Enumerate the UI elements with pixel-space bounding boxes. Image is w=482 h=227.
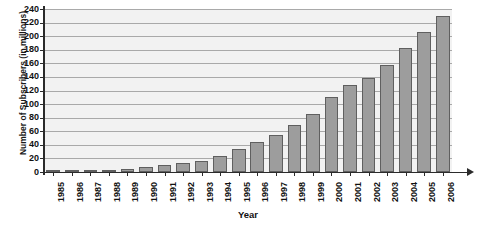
x-tick-label: 1994 bbox=[224, 182, 233, 202]
x-tick-label: 2001 bbox=[354, 182, 363, 202]
x-tick-label: 1991 bbox=[169, 182, 178, 202]
bar bbox=[343, 85, 357, 172]
y-tick-label: 120 bbox=[15, 86, 39, 95]
y-tick-label: 0 bbox=[15, 168, 39, 177]
x-tick-mark bbox=[183, 172, 184, 176]
x-tick-label: 2006 bbox=[447, 182, 456, 202]
y-axis-tick-labels: 020406080100120140160180200220240 bbox=[11, 0, 39, 227]
x-tick-mark bbox=[443, 172, 444, 176]
x-tick-mark bbox=[146, 172, 147, 176]
y-tick-label: 220 bbox=[15, 18, 39, 27]
x-tick-label: 1996 bbox=[261, 182, 270, 202]
x-tick-label: 1992 bbox=[187, 182, 196, 202]
x-tick-mark bbox=[53, 172, 54, 176]
x-tick-label: 1987 bbox=[94, 182, 103, 202]
bar bbox=[269, 135, 283, 172]
x-tick-mark bbox=[220, 172, 221, 176]
x-tick-mark bbox=[127, 172, 128, 176]
x-tick-label: 1985 bbox=[57, 182, 66, 202]
x-tick-label: 2005 bbox=[428, 182, 437, 202]
y-tick-label: 80 bbox=[15, 113, 39, 122]
x-tick-label: 1993 bbox=[206, 182, 215, 202]
bar bbox=[436, 16, 450, 172]
bar bbox=[232, 149, 246, 172]
y-tick-label: 40 bbox=[15, 140, 39, 149]
x-tick-mark bbox=[276, 172, 277, 176]
y-tick-label: 100 bbox=[15, 100, 39, 109]
x-tick-mark bbox=[350, 172, 351, 176]
bar bbox=[399, 48, 413, 172]
bar bbox=[288, 125, 302, 172]
x-tick-label: 1988 bbox=[113, 182, 122, 202]
x-tick-mark bbox=[109, 172, 110, 176]
y-tick-label: 60 bbox=[15, 127, 39, 136]
x-tick-mark bbox=[165, 172, 166, 176]
x-tick-label: 1998 bbox=[298, 182, 307, 202]
x-tick-mark bbox=[202, 172, 203, 176]
x-axis-title: Year bbox=[44, 209, 452, 220]
x-tick-mark bbox=[424, 172, 425, 176]
x-tick-label: 2002 bbox=[373, 182, 382, 202]
bar bbox=[417, 32, 431, 172]
bar bbox=[380, 65, 394, 172]
x-tick-label: 1995 bbox=[243, 182, 252, 202]
y-axis-line bbox=[43, 6, 45, 175]
bar bbox=[362, 78, 376, 172]
x-tick-mark bbox=[90, 172, 91, 176]
x-tick-mark bbox=[313, 172, 314, 176]
x-tick-label: 1989 bbox=[131, 182, 140, 202]
x-tick-mark bbox=[294, 172, 295, 176]
y-tick-label: 160 bbox=[15, 59, 39, 68]
x-tick-label: 1997 bbox=[280, 182, 289, 202]
x-tick-mark bbox=[257, 172, 258, 176]
bar bbox=[306, 114, 320, 172]
x-tick-mark bbox=[239, 172, 240, 176]
x-tick-mark bbox=[406, 172, 407, 176]
bar bbox=[325, 97, 339, 172]
x-tick-label: 2003 bbox=[391, 182, 400, 202]
x-tick-mark bbox=[331, 172, 332, 176]
bar bbox=[195, 161, 209, 172]
x-axis-tick-labels: 1985198619871988198919901991199219931994… bbox=[44, 174, 452, 206]
x-tick-mark bbox=[72, 172, 73, 176]
bar-chart: Number of Subscribers (in millions) 0204… bbox=[0, 0, 482, 227]
x-axis-arrow-icon bbox=[467, 168, 474, 176]
x-tick-label: 1990 bbox=[150, 182, 159, 202]
x-tick-mark bbox=[369, 172, 370, 176]
y-tick-label: 240 bbox=[15, 5, 39, 14]
x-tick-label: 2000 bbox=[335, 182, 344, 202]
x-tick-label: 1986 bbox=[76, 182, 85, 202]
x-tick-label: 2004 bbox=[410, 182, 419, 202]
y-tick-label: 140 bbox=[15, 72, 39, 81]
bar bbox=[250, 142, 264, 172]
y-tick-label: 200 bbox=[15, 32, 39, 41]
y-tick-label: 20 bbox=[15, 154, 39, 163]
x-tick-label: 1999 bbox=[317, 182, 326, 202]
bar bbox=[213, 156, 227, 172]
y-tick-label: 180 bbox=[15, 45, 39, 54]
bar-series bbox=[44, 9, 452, 172]
x-tick-mark bbox=[387, 172, 388, 176]
